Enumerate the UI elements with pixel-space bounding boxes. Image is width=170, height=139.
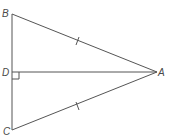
segment-ba: [12, 14, 157, 72]
label-d: D: [2, 67, 9, 78]
label-c: C: [3, 126, 11, 137]
right-angle-marker: [12, 72, 19, 79]
triangle-diagram: B D C A: [0, 0, 170, 139]
label-a: A: [157, 67, 165, 78]
label-b: B: [2, 8, 9, 19]
segment-ca: [12, 72, 157, 130]
